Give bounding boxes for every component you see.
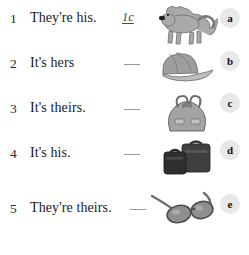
answer-blank[interactable] xyxy=(124,100,140,116)
blank-rule xyxy=(124,64,140,65)
option-badge-b[interactable]: b xyxy=(220,51,240,71)
row-number: 2 xyxy=(10,57,17,71)
sunglasses-picture xyxy=(148,190,218,230)
handbag-picture xyxy=(160,93,214,135)
row-sentence: They're theirs. xyxy=(30,200,112,216)
option-badge-c[interactable]: c xyxy=(220,93,240,113)
exercise-row: 4 It's his. d xyxy=(0,135,249,180)
row-sentence: They're his. xyxy=(30,10,97,26)
exercise-row: 1 They're his. 1c a xyxy=(0,0,249,45)
row-number: 3 xyxy=(10,102,17,116)
option-badge-a[interactable]: a xyxy=(220,8,240,28)
exercise-row: 2 It's hers b xyxy=(0,45,249,90)
answer-blank[interactable] xyxy=(124,55,140,71)
answer-input[interactable]: 1c xyxy=(122,10,134,25)
blank-rule xyxy=(124,109,140,110)
exercise-row: 3 It's theirs. c xyxy=(0,90,249,135)
option-badge-e[interactable]: e xyxy=(220,194,240,214)
option-badge-d[interactable]: d xyxy=(220,140,240,160)
blank-rule xyxy=(130,209,146,210)
blank-rule xyxy=(124,154,140,155)
row-sentence: It's theirs. xyxy=(30,100,86,116)
row-number: 4 xyxy=(10,147,17,161)
row-sentence: It's hers xyxy=(30,55,74,71)
answer-blank[interactable] xyxy=(130,200,146,216)
luggage-picture xyxy=(158,139,216,179)
row-number: 1 xyxy=(10,12,17,26)
row-number: 5 xyxy=(10,202,17,216)
answer-blank[interactable] xyxy=(124,145,140,161)
exercise-row: 5 They're theirs. e xyxy=(0,180,249,225)
baseball-cap-picture xyxy=(155,48,217,86)
dog-picture xyxy=(152,2,218,46)
row-sentence: It's his. xyxy=(30,145,71,161)
matching-exercise-worksheet: 1 They're his. 1c a 2 It xyxy=(0,0,249,255)
